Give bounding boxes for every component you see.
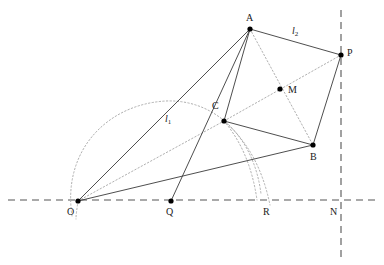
point-label-P: P (347, 48, 353, 58)
segment-A-C (224, 29, 250, 121)
segment-O-B (78, 145, 313, 201)
solid-segments-group (78, 29, 341, 201)
vertex-dot-Q (168, 198, 173, 203)
arc-tail-below-O (76, 201, 78, 219)
vertex-dot-O (75, 198, 80, 203)
segment-Q-A (171, 29, 250, 201)
vertex-dot-P (338, 52, 343, 57)
vertex-dot-B (310, 142, 315, 147)
vertex-dots-group (75, 26, 343, 203)
point-label-R: R (263, 207, 270, 217)
point-label-M: M (288, 85, 297, 95)
point-label-A: A (246, 13, 253, 23)
geometry-figure: APMCBOQRNl1l2 (0, 0, 384, 265)
point-label-N: N (330, 207, 337, 217)
vertex-dot-C (221, 118, 226, 123)
axes-group (8, 10, 378, 262)
point-label-Q: Q (166, 207, 173, 217)
vertex-dot-A (247, 26, 252, 31)
line-label-l1: l1 (165, 114, 171, 124)
point-label-B: B (310, 152, 317, 162)
arc-from-C-outer (224, 121, 270, 205)
line-label-l2: l2 (292, 26, 298, 36)
point-label-O: O (67, 207, 74, 217)
point-label-C: C (212, 101, 219, 111)
segment-B-P (313, 55, 341, 145)
dotted-segments-group (78, 29, 341, 201)
geometry-canvas (0, 0, 384, 265)
segment-O-A (78, 29, 250, 201)
segment-C-B (224, 121, 313, 145)
vertex-dot-M (277, 86, 282, 91)
